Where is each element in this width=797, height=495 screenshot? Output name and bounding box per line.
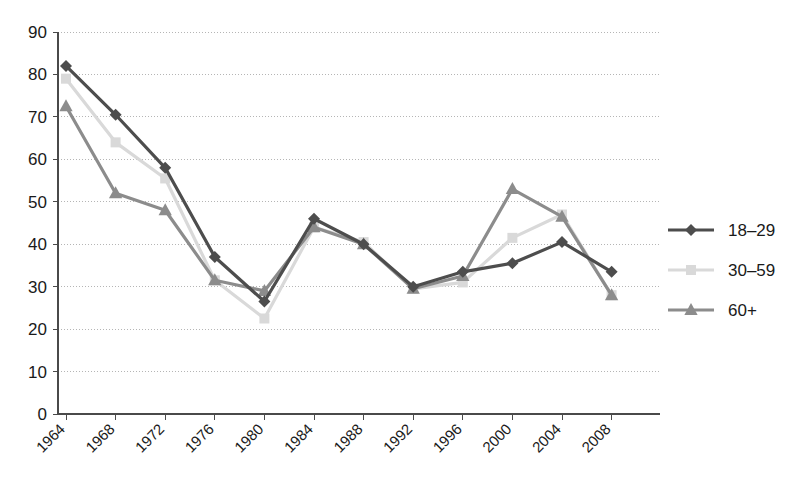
legend-label: 18–29	[728, 221, 775, 240]
data-point-marker	[507, 233, 517, 243]
data-point-marker	[685, 224, 697, 236]
legend-label: 60+	[728, 301, 757, 320]
series-line	[66, 106, 612, 295]
x-tick-label: 1972	[132, 420, 168, 456]
legend-item[interactable]: 30–59	[668, 261, 775, 280]
y-tick-label: 90	[28, 23, 47, 42]
series-line	[66, 66, 612, 302]
y-tick-labels: 0102030405060708090	[28, 23, 47, 424]
x-tick-label: 1984	[281, 420, 317, 456]
y-tick-label: 30	[28, 278, 47, 297]
legend-item[interactable]: 60+	[668, 301, 757, 320]
data-point-marker	[259, 314, 269, 324]
data-point-marker	[111, 137, 121, 147]
data-point-marker	[59, 99, 72, 111]
data-point-marker	[506, 257, 518, 269]
x-tick-label: 2004	[529, 420, 565, 456]
x-tick-label: 2000	[479, 420, 515, 456]
chart-legend: 18–2930–5960+	[668, 221, 775, 320]
y-axis	[53, 32, 58, 414]
x-tick-label: 1968	[82, 420, 118, 456]
line-chart: 0102030405060708090 19641968197219761980…	[0, 0, 797, 495]
y-tick-label: 0	[38, 405, 47, 424]
series-1829	[60, 60, 618, 308]
y-tick-label: 50	[28, 193, 47, 212]
y-tick-label: 80	[28, 65, 47, 84]
x-tick-label: 1976	[181, 420, 217, 456]
grid-lines	[58, 32, 660, 414]
chart-container: 0102030405060708090 19641968197219761980…	[0, 0, 797, 495]
x-tick-label: 1996	[429, 420, 465, 456]
data-point-marker	[686, 265, 696, 275]
y-tick-label: 60	[28, 150, 47, 169]
x-tick-label: 2008	[578, 420, 614, 456]
x-tick-label: 1992	[380, 420, 416, 456]
series-3059	[61, 74, 617, 324]
data-series-group	[59, 60, 618, 324]
y-tick-label: 70	[28, 108, 47, 127]
data-point-marker	[506, 182, 519, 194]
y-tick-label: 10	[28, 363, 47, 382]
x-axis	[58, 414, 660, 420]
legend-item[interactable]: 18–29	[668, 221, 775, 240]
y-tick-label: 20	[28, 320, 47, 339]
series-60+	[59, 99, 618, 300]
x-tick-label: 1964	[33, 420, 69, 456]
x-tick-label: 1980	[231, 420, 267, 456]
y-tick-label: 40	[28, 235, 47, 254]
x-tick-labels: 1964196819721976198019841988199219962000…	[33, 420, 614, 456]
x-tick-label: 1988	[330, 420, 366, 456]
legend-label: 30–59	[728, 261, 775, 280]
data-point-marker	[61, 74, 71, 84]
